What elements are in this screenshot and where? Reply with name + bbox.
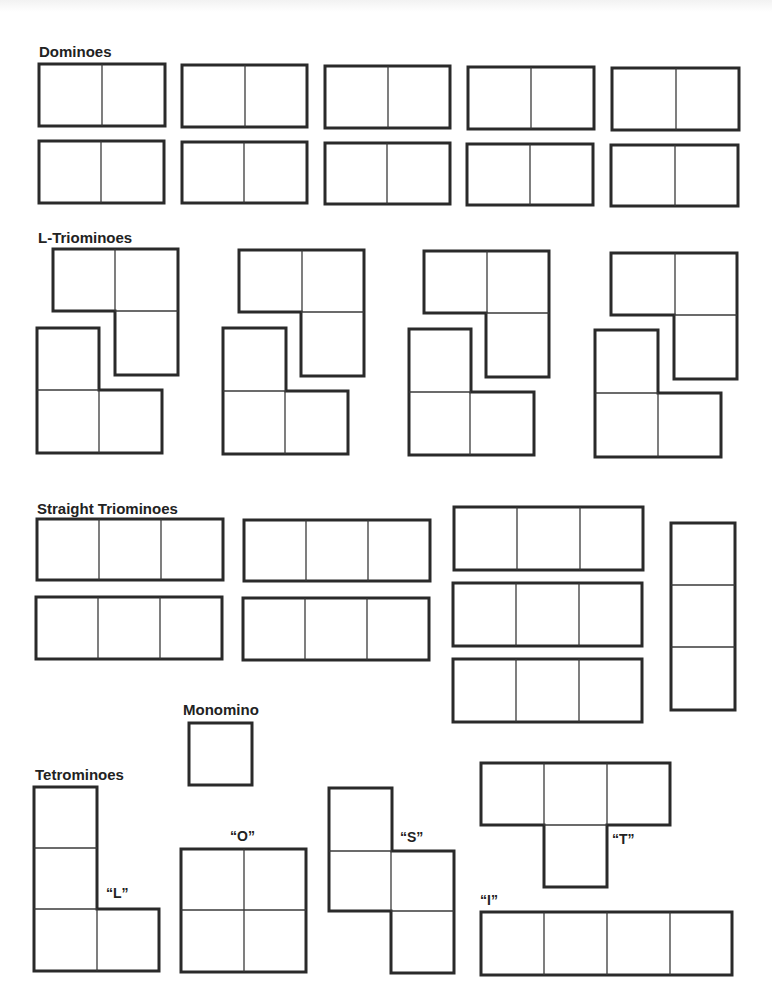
domino-piece[interactable] — [467, 144, 593, 205]
tetromino-s-label: “S” — [400, 830, 423, 844]
straight-triomino-piece[interactable] — [244, 520, 430, 581]
domino-piece[interactable] — [182, 142, 307, 203]
tetrominoes-heading: Tetrominoes — [35, 767, 124, 783]
domino-piece[interactable] — [325, 66, 450, 128]
tetromino-o-label: “O” — [230, 829, 255, 843]
domino-piece[interactable] — [182, 65, 307, 127]
straight-triomino-piece[interactable] — [37, 519, 223, 580]
tetromino-l-label: “L” — [106, 886, 129, 900]
tetromino-i-label: “I” — [480, 893, 498, 907]
tetromino-t-piece[interactable] — [481, 763, 670, 887]
domino-piece[interactable] — [39, 141, 164, 203]
monomino-piece[interactable] — [189, 723, 252, 785]
straight-triomino-piece[interactable] — [36, 597, 222, 659]
tetromino-o-piece[interactable] — [181, 849, 306, 972]
straight-triominoes-heading: Straight Triominoes — [37, 501, 178, 517]
domino-piece[interactable] — [39, 64, 165, 126]
straight-triomino-vertical-piece[interactable] — [671, 523, 735, 710]
l-triominoes-heading: L-Triominoes — [38, 230, 132, 246]
monomino-heading: Monomino — [183, 702, 259, 718]
straight-triomino-piece[interactable] — [454, 507, 643, 570]
domino-piece[interactable] — [325, 143, 450, 204]
scan-edge-noise — [0, 0, 772, 12]
tetromino-t-label: “T” — [612, 832, 635, 846]
dominoes-heading: Dominoes — [39, 44, 112, 60]
l-triomino-piece[interactable] — [37, 328, 162, 453]
l-triomino-piece[interactable] — [595, 330, 721, 457]
l-triomino-piece[interactable] — [409, 329, 534, 455]
tetromino-l-piece[interactable] — [34, 787, 159, 971]
domino-piece[interactable] — [611, 145, 738, 206]
domino-piece[interactable] — [468, 67, 594, 129]
l-triomino-piece[interactable] — [223, 328, 348, 454]
tetromino-s-piece[interactable] — [329, 788, 454, 973]
straight-triomino-piece[interactable] — [453, 659, 642, 722]
straight-triomino-piece[interactable] — [453, 583, 642, 646]
tetromino-i-piece[interactable] — [481, 912, 732, 975]
straight-triomino-piece[interactable] — [243, 598, 429, 660]
domino-piece[interactable] — [612, 68, 739, 130]
